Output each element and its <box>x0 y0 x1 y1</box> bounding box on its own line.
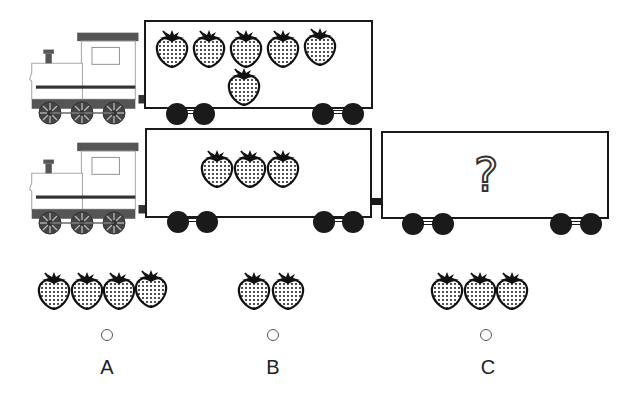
strawberry-icon <box>236 270 272 310</box>
wagon-wheel <box>342 211 364 233</box>
strawberry-icon <box>232 148 268 188</box>
wagon-wheel <box>550 213 572 235</box>
strawberry-icon <box>154 28 190 68</box>
strawberry-icon <box>226 66 262 106</box>
strawberry-icon <box>199 148 235 188</box>
strawberry-icon <box>265 28 301 68</box>
wagon-wheel <box>196 211 218 233</box>
wagon-2 <box>145 128 372 218</box>
strawberry-icon <box>462 270 498 310</box>
question-mark-icon: ? <box>474 152 498 198</box>
strawberry-icon <box>191 28 227 68</box>
strawberry-icon <box>133 268 169 308</box>
locomotive-icon <box>0 136 148 236</box>
strawberry-icon <box>36 270 72 310</box>
wagon-wheel <box>166 103 188 125</box>
wagon-1 <box>144 20 373 109</box>
wagon-wheel <box>402 213 424 235</box>
wagon-3-unknown: ? <box>381 131 609 219</box>
option-b-radio[interactable] <box>267 329 279 341</box>
strawberry-icon <box>302 26 338 66</box>
strawberry-icon <box>429 270 465 310</box>
wagon-wheel <box>193 103 215 125</box>
wagon-wheel <box>432 213 454 235</box>
wagon-wheel <box>312 103 334 125</box>
strawberry-icon <box>101 270 137 310</box>
strawberry-icon <box>270 270 306 310</box>
strawberry-icon <box>494 270 530 310</box>
wagon-wheel <box>580 213 602 235</box>
option-b-label: B <box>263 356 283 379</box>
strawberry-icon <box>228 28 264 68</box>
option-a-label: A <box>97 356 117 379</box>
option-c-radio[interactable] <box>480 329 492 341</box>
wagon-wheel <box>167 211 189 233</box>
strawberry-icon <box>265 148 301 188</box>
locomotive-icon <box>0 26 148 126</box>
option-c-label: C <box>478 356 498 379</box>
strawberry-icon <box>69 270 105 310</box>
wagon-wheel <box>342 103 364 125</box>
wagon-wheel <box>313 211 335 233</box>
option-a-radio[interactable] <box>101 329 113 341</box>
